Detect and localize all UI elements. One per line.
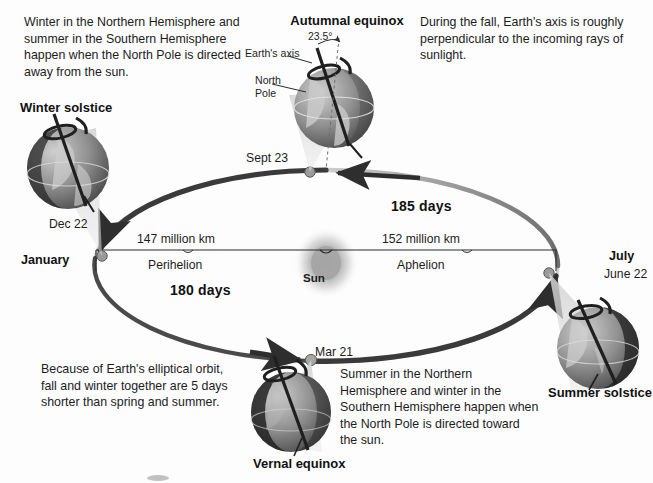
label-earths-axis: Earth's axis bbox=[245, 46, 299, 60]
paragraph-winter-northern: Winter in the Northern Hemisphere and su… bbox=[24, 14, 244, 80]
label-days-lower: 180 days bbox=[170, 281, 231, 300]
label-north-pole: North Pole bbox=[255, 74, 281, 99]
diagram-canvas: Winter in the Northern Hemisphere and su… bbox=[0, 0, 653, 483]
globe-summer-solstice bbox=[549, 273, 639, 396]
label-autumnal-equinox: Autumnal equinox bbox=[277, 12, 417, 29]
label-tilt-angle: 23.5° bbox=[308, 30, 332, 44]
paragraph-fall-axis: During the fall, Earth's axis is roughly… bbox=[420, 14, 630, 64]
paragraph-elliptical-orbit: Because of Earth's elliptical orbit, fal… bbox=[41, 361, 231, 411]
label-date-sept23: Sept 23 bbox=[246, 150, 288, 166]
label-winter-solstice: Winter solstice bbox=[20, 99, 112, 116]
label-date-dec22: Dec 22 bbox=[49, 216, 88, 232]
label-sun: Sun bbox=[303, 270, 325, 285]
label-date-june22: June 22 bbox=[604, 266, 647, 282]
paragraph-summer-northern: Summer in the Northern Hemisphere and wi… bbox=[340, 366, 540, 449]
label-month-july: July bbox=[609, 248, 634, 265]
label-days-upper: 185 days bbox=[391, 197, 452, 216]
label-aphelion-distance: 152 million km bbox=[382, 231, 460, 247]
label-summer-solstice: Summer solstice bbox=[548, 384, 652, 401]
sun-graphic bbox=[293, 227, 359, 299]
label-perihelion-distance: 147 million km bbox=[137, 231, 215, 247]
label-vernal-equinox: Vernal equinox bbox=[253, 455, 345, 472]
label-aphelion: Aphelion bbox=[397, 257, 444, 273]
label-month-january: January bbox=[21, 252, 69, 269]
label-date-mar21: Mar 21 bbox=[315, 344, 353, 360]
label-perihelion: Perihelion bbox=[148, 257, 202, 273]
globe-winter-solstice bbox=[27, 114, 109, 256]
globe-vernal-equinox bbox=[251, 356, 331, 456]
page-artifact-mark bbox=[147, 475, 169, 481]
